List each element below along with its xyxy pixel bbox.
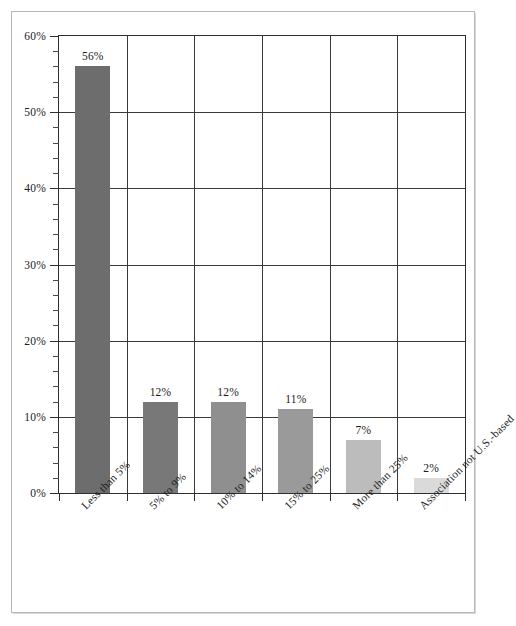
- bar-value-label: 2%: [423, 462, 439, 474]
- y-axis-tick: [50, 493, 59, 494]
- y-axis-minor-tick: [53, 463, 59, 464]
- vertical-gridline: [194, 36, 195, 493]
- y-axis-minor-tick: [53, 143, 59, 144]
- y-axis-minor-tick: [53, 51, 59, 52]
- y-axis-minor-tick: [53, 447, 59, 448]
- y-axis-minor-tick: [53, 173, 59, 174]
- y-axis-tick: [50, 188, 59, 189]
- y-axis-tick: [50, 417, 59, 418]
- bar[interactable]: 56%: [75, 66, 110, 493]
- y-axis-minor-tick: [53, 127, 59, 128]
- bar-value-label: 11%: [285, 393, 306, 405]
- y-axis-minor-tick: [53, 386, 59, 387]
- x-axis-tick: [194, 493, 195, 501]
- bar-value-label: 7%: [356, 424, 372, 436]
- x-axis-tick: [397, 493, 398, 501]
- y-axis-minor-tick: [53, 82, 59, 83]
- y-axis-tick: [50, 265, 59, 266]
- y-axis-tick-label: 50%: [24, 106, 46, 118]
- y-axis-minor-tick: [53, 66, 59, 67]
- bar-value-label: 56%: [82, 50, 104, 62]
- y-axis-minor-tick: [53, 280, 59, 281]
- vertical-gridline: [397, 36, 398, 493]
- y-axis-tick: [50, 36, 59, 37]
- y-axis-tick: [50, 341, 59, 342]
- y-axis-tick-label: 40%: [24, 182, 46, 194]
- y-axis-minor-tick: [53, 295, 59, 296]
- y-axis-minor-tick: [53, 204, 59, 205]
- bar-value-label: 12%: [150, 386, 172, 398]
- y-axis-minor-tick: [53, 432, 59, 433]
- x-axis-tick: [465, 493, 466, 501]
- y-axis-minor-tick: [53, 402, 59, 403]
- y-axis-tick-label: 10%: [24, 411, 46, 423]
- y-axis-minor-tick: [53, 478, 59, 479]
- y-axis-minor-tick: [53, 158, 59, 159]
- y-axis-minor-tick: [53, 249, 59, 250]
- y-axis-minor-tick: [53, 219, 59, 220]
- vertical-gridline: [330, 36, 331, 493]
- y-axis-minor-tick: [53, 97, 59, 98]
- y-axis-tick: [50, 112, 59, 113]
- y-axis-tick-label: 60%: [24, 30, 46, 42]
- x-axis-tick: [330, 493, 331, 501]
- y-axis-minor-tick: [53, 325, 59, 326]
- vertical-gridline: [127, 36, 128, 493]
- x-axis-tick: [127, 493, 128, 501]
- y-axis-minor-tick: [53, 234, 59, 235]
- y-axis-minor-tick: [53, 356, 59, 357]
- x-axis-tick: [262, 493, 263, 501]
- y-axis-tick-label: 0%: [30, 487, 46, 499]
- y-axis-tick-label: 20%: [24, 335, 46, 347]
- y-axis-tick-label: 30%: [24, 259, 46, 271]
- vertical-gridline: [262, 36, 263, 493]
- x-axis-tick: [59, 493, 60, 501]
- y-axis-minor-tick: [53, 310, 59, 311]
- plot-area: 0%10%20%30%40%50%60%56%Less than 5%12%5%…: [58, 35, 466, 494]
- bar-value-label: 12%: [217, 386, 239, 398]
- y-axis-minor-tick: [53, 371, 59, 372]
